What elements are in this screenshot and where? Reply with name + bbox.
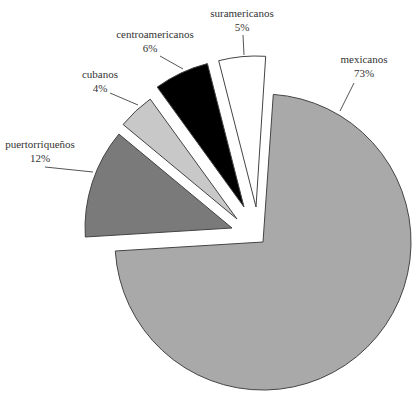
exploded-pie-chart: mexicanos 73% puertorriqueños 12% cubano… bbox=[0, 0, 419, 400]
leader-line bbox=[243, 35, 244, 55]
label-name-mexicanos: mexicanos bbox=[340, 53, 387, 65]
pie-slices bbox=[85, 56, 411, 390]
label-name-suramericanos: suramericanos bbox=[210, 7, 274, 19]
label-suramericanos: suramericanos 5% bbox=[210, 7, 274, 33]
label-centroamericanos: centroamericanos 6% bbox=[116, 28, 194, 54]
label-mexicanos: mexicanos 73% bbox=[340, 53, 387, 79]
label-puertorriquenos: puertorriqueños 12% bbox=[5, 138, 75, 164]
label-name-cubanos: cubanos bbox=[82, 68, 118, 80]
label-pct-cubanos: 4% bbox=[93, 82, 108, 94]
label-name-puertorriquenos: puertorriqueños bbox=[5, 138, 75, 150]
label-name-centroamericanos: centroamericanos bbox=[116, 28, 194, 40]
leader-line bbox=[110, 93, 138, 105]
label-pct-puertorriquenos: 12% bbox=[30, 152, 50, 164]
label-cubanos: cubanos 4% bbox=[82, 68, 118, 94]
label-pct-mexicanos: 73% bbox=[354, 67, 374, 79]
label-pct-suramericanos: 5% bbox=[235, 21, 250, 33]
slice-suramericanos bbox=[219, 56, 266, 207]
leader-line bbox=[340, 83, 354, 111]
leader-line bbox=[45, 167, 93, 172]
label-pct-centroamericanos: 6% bbox=[143, 42, 158, 54]
leader-line bbox=[160, 56, 183, 69]
